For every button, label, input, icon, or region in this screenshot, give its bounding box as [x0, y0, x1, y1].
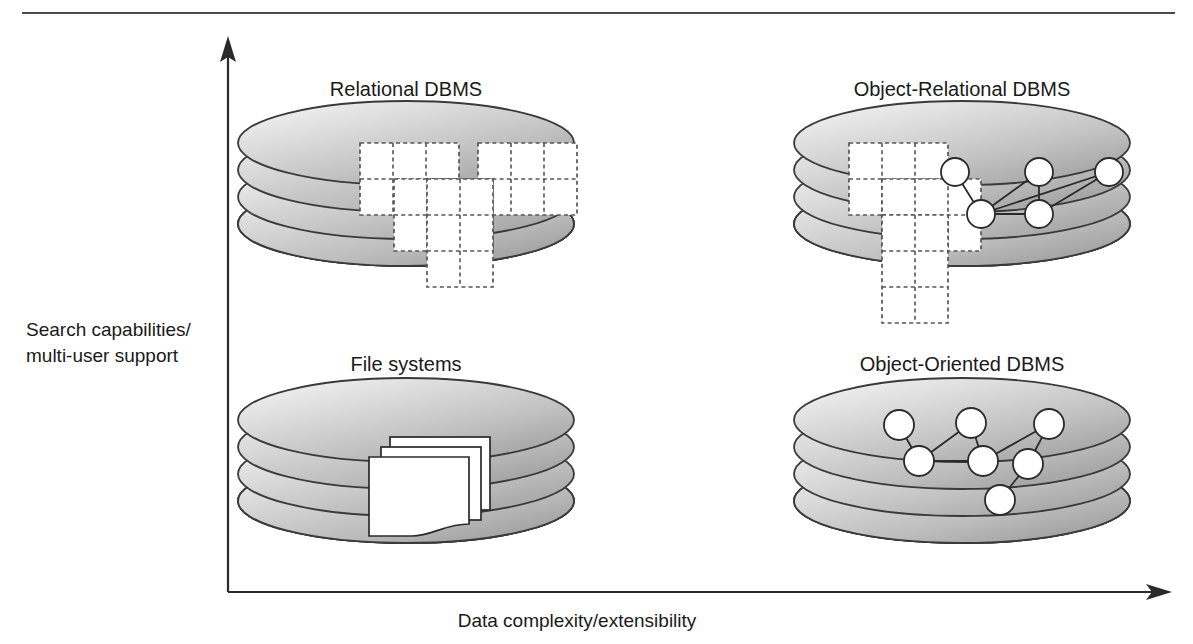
- quadrant-title-object-oriented-dbms: Object-Oriented DBMS: [860, 353, 1065, 375]
- table-relational-4: [427, 179, 493, 287]
- object-node: [1095, 158, 1123, 186]
- y-axis-label-line1: Search capabilities/: [26, 319, 191, 340]
- quadrant-relational-dbms: Relational DBMS: [238, 78, 577, 287]
- quadrant-file-systems: File systems: [238, 353, 574, 543]
- quadrant-object-oriented-dbms: Object-Oriented DBMS: [794, 353, 1130, 543]
- quadrant-object-relational-dbms: Object-Relational DBMS: [794, 78, 1130, 323]
- document-sheet-front: [369, 457, 469, 536]
- x-axis-label: Data complexity/extensibility: [458, 610, 697, 631]
- object-node: [904, 446, 934, 476]
- figure-page: Search capabilities/ multi-user support …: [0, 0, 1193, 644]
- quadrant-title-file-systems: File systems: [350, 353, 461, 375]
- quadrant-title-relational-dbms: Relational DBMS: [330, 78, 482, 100]
- object-node: [1025, 200, 1053, 228]
- object-node: [1034, 409, 1064, 439]
- object-node: [968, 446, 998, 476]
- y-axis-label-line2: multi-user support: [26, 345, 179, 366]
- table-objrel-3: [882, 215, 948, 323]
- object-node: [967, 200, 995, 228]
- object-node: [1013, 449, 1043, 479]
- object-node: [941, 158, 969, 186]
- object-node: [1025, 158, 1053, 186]
- quadrant-title-object-relational-dbms: Object-Relational DBMS: [854, 78, 1071, 100]
- quadrant-diagram-figure: Search capabilities/ multi-user support …: [0, 0, 1193, 644]
- object-node: [985, 485, 1015, 515]
- object-node: [884, 410, 914, 440]
- object-node: [956, 408, 986, 438]
